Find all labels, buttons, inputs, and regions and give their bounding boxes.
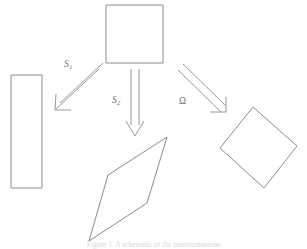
arrow-s1-line-inner: [56, 69, 99, 109]
arrow-omega-line-outer: [183, 64, 226, 106]
arrow-s1: [55, 63, 103, 110]
shape-rotated-square: [220, 107, 297, 188]
arrow-label-s1: S1: [64, 60, 72, 70]
arrow-label-s2: S2: [112, 96, 120, 106]
figure-container: S1 S2 Ω Figure 1. A schematic of the tra…: [0, 0, 307, 249]
parallelogram-outline: [89, 137, 167, 241]
arrow-s2: [126, 69, 144, 136]
square-outline: [106, 5, 163, 63]
shape-tall-rectangle: [11, 75, 42, 188]
shape-square: [106, 5, 163, 63]
arrow-label-s2-subscript: 2: [117, 99, 120, 106]
arrow-label-s1-subscript: 1: [69, 63, 72, 70]
figure-canvas: [0, 0, 307, 249]
tall-rectangle-outline: [11, 75, 42, 188]
arrow-s2-head: [126, 121, 144, 136]
arrow-label-omega-base: Ω: [179, 96, 186, 106]
arrow-omega-head: [210, 97, 226, 112]
shape-parallelogram: [89, 137, 167, 241]
rotated-square-outline: [220, 107, 297, 188]
figure-caption: Figure 1. A schematic of the transformat…: [0, 240, 307, 249]
arrow-label-omega: Ω: [179, 97, 186, 107]
